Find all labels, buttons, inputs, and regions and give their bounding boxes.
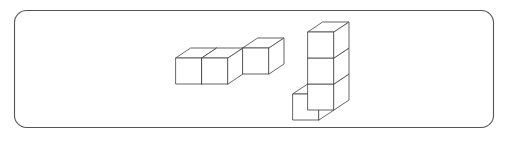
cube-left-face [202,58,228,84]
right-cube-group [293,22,349,120]
left-cube-group [176,38,284,84]
cube-left-back-c [243,38,284,74]
cube-left-front-b [202,48,243,84]
cube-left-face [308,32,334,58]
cube-left-face [243,48,269,74]
cube-left-face [308,84,334,110]
cube-stack-top [308,22,349,58]
cube-left-face [176,58,202,84]
figure-canvas [0,0,507,141]
cube-left-face [308,58,334,84]
